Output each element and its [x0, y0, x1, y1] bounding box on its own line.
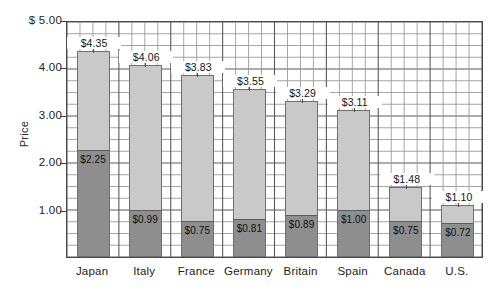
bar-segment-upper: [77, 51, 110, 151]
bar-canada[interactable]: [389, 187, 422, 257]
total-label-leader: [302, 99, 303, 103]
bar-segment-value-label: $1.00: [332, 214, 376, 225]
y-tick-label: $ 5.00: [4, 14, 62, 26]
bar-italy[interactable]: [129, 65, 162, 257]
bar-segment-lower: [77, 150, 110, 257]
plot-area: $4.35$2.25$4.06$0.99$3.83$0.75$3.55$0.81…: [66, 21, 483, 258]
bar-segment-upper: [337, 110, 370, 210]
bar-total-label: $3.83: [171, 61, 225, 73]
bar-total-label: $3.11: [328, 96, 382, 108]
bar-spain[interactable]: [337, 110, 370, 257]
bar-segment-value-label: $0.81: [227, 223, 271, 234]
bar-segment-value-label: $0.75: [384, 225, 428, 236]
total-label-leader: [249, 87, 250, 91]
total-label-leader: [406, 185, 407, 189]
bar-total-label: $3.29: [276, 87, 330, 99]
y-tick-label: 1.00: [4, 204, 62, 216]
bar-segment-value-label: $0.72: [436, 227, 480, 238]
bar-segment-value-label: $0.89: [280, 219, 324, 230]
bar-segment-value-label: $0.99: [123, 214, 167, 225]
y-tick-label: 3.00: [4, 109, 62, 121]
x-label-us: U.S.: [417, 265, 497, 277]
total-label-leader: [197, 73, 198, 77]
bar-segment-upper: [181, 75, 214, 221]
bar-total-label: $1.10: [432, 191, 486, 203]
y-tick-label: 2.00: [4, 156, 62, 168]
bar-total-label: $1.48: [380, 173, 434, 185]
y-tick-label: 4.00: [4, 61, 62, 73]
stacked-bar-chart: Price $ 5.004.003.002.001.00 $4.35$2.25$…: [0, 0, 504, 293]
total-label-leader: [145, 63, 146, 67]
bar-segment-value-label: $2.25: [71, 154, 115, 165]
total-label-leader: [93, 49, 94, 53]
bar-total-label: $3.55: [223, 75, 277, 87]
bar-total-label: $4.06: [119, 51, 173, 63]
total-label-leader: [458, 203, 459, 207]
bar-segment-upper: [389, 187, 422, 222]
bar-segment-upper: [441, 205, 474, 223]
bar-segment-upper: [233, 89, 266, 219]
bar-segment-upper: [129, 65, 162, 211]
bar-total-label: $4.35: [67, 37, 121, 49]
bar-segment-upper: [285, 101, 318, 215]
bar-britain[interactable]: [285, 101, 318, 257]
y-axis-tick-labels: $ 5.004.003.002.001.00: [0, 0, 62, 293]
total-label-leader: [354, 108, 355, 112]
bar-segment-value-label: $0.75: [175, 225, 219, 236]
